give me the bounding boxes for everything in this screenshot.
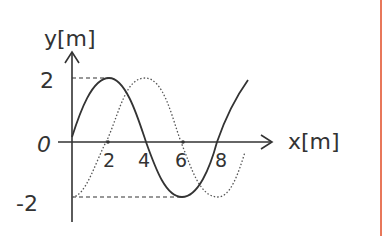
x-tick-8: 8 — [215, 149, 227, 171]
y-tick-2: 2 — [40, 68, 54, 93]
x-tick-6: 6 — [175, 149, 187, 171]
x-axis — [58, 135, 272, 149]
x-tick-4: 4 — [138, 149, 150, 171]
x-tick-2: 2 — [103, 149, 115, 171]
wave-diagram: y[m] x[m] 2 0 -2 2 4 6 8 — [0, 0, 383, 236]
solid-wave — [72, 78, 248, 197]
y-tick-0: 0 — [37, 132, 51, 157]
right-border — [380, 0, 382, 236]
y-tick-neg2: -2 — [16, 191, 38, 216]
y-axis-label: y[m] — [44, 26, 96, 51]
x-axis-label: x[m] — [288, 129, 340, 154]
diagram-canvas: y[m] x[m] 2 0 -2 2 4 6 8 — [0, 0, 383, 236]
